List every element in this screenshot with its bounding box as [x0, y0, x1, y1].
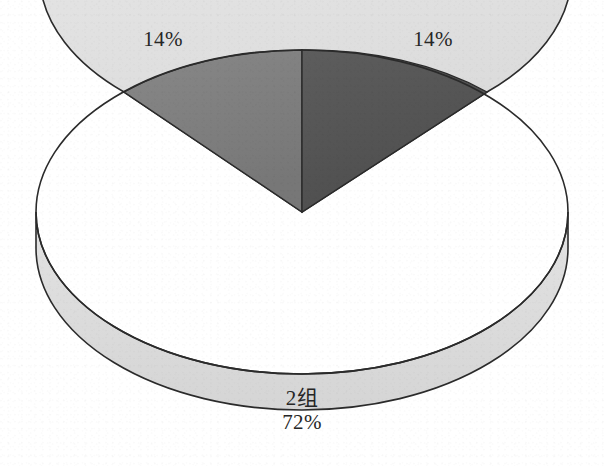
pie-label-left-slice: 14%	[118, 27, 208, 51]
pie-label-main-value: 72%	[247, 410, 357, 434]
pie-label-right-value: 14%	[388, 27, 478, 51]
pie-label-main-name: 2组	[247, 386, 357, 410]
pie-top-face	[36, 0, 572, 374]
pie-label-main-slice: 2组 72%	[247, 386, 357, 435]
pie-3d-side-wall	[36, 212, 568, 410]
pie-label-right-slice: 14%	[388, 27, 478, 51]
pie-label-left-value: 14%	[118, 27, 208, 51]
pie-chart-figure: 14% 14% 2组 72%	[0, 0, 604, 466]
